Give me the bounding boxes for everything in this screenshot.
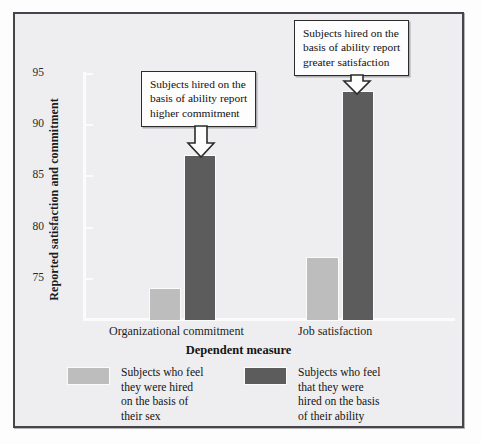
bar-job-satisfaction-sex[interactable] — [306, 257, 339, 321]
legend-label-sex: Subjects who feel they were hired on the… — [121, 366, 203, 425]
annotation-commitment-line-1: Subjects hired on the — [150, 77, 247, 91]
legend-label-ability: Subjects who feel that they were hired o… — [298, 366, 380, 425]
y-tick-label-95: 95 — [14, 66, 44, 78]
bar-organizational-commitment-ability[interactable] — [184, 155, 216, 321]
legend-label-ability-line-3: hired on the basis — [298, 395, 380, 410]
y-tick-95 — [86, 73, 93, 75]
annotation-satisfaction-callout: Subjects hired on the basis of ability r… — [294, 20, 409, 76]
annotation-satisfaction-line-3: greater satisfaction — [303, 55, 400, 69]
annotation-commitment-callout: Subjects hired on the basis of ability r… — [141, 71, 256, 127]
annotation-commitment-line-2: basis of ability report — [150, 91, 247, 105]
legend-swatch-ability-icon — [244, 367, 287, 385]
legend-item-ability[interactable]: Subjects who feel that they were hired o… — [244, 366, 380, 425]
y-tick-label-90: 90 — [14, 117, 44, 129]
bar-organizational-commitment-sex[interactable] — [149, 288, 181, 321]
y-tick-90 — [86, 124, 93, 126]
x-axis-line — [83, 318, 455, 321]
legend-item-sex[interactable]: Subjects who feel they were hired on the… — [67, 366, 203, 425]
annotation-commitment-line-3: higher commitment — [150, 106, 247, 120]
x-axis-title: Dependent measure — [15, 343, 462, 358]
legend-label-sex-line-2: they were hired — [121, 381, 203, 396]
legend-label-ability-line-2: that they were — [298, 381, 380, 396]
y-tick-label-80: 80 — [14, 220, 44, 232]
legend-label-sex-line-4: their sex — [121, 410, 203, 425]
y-tick-80 — [86, 227, 93, 229]
y-tick-label-75: 75 — [14, 271, 44, 283]
annotation-satisfaction-line-1: Subjects hired on the — [303, 26, 400, 40]
y-tick-75 — [86, 278, 93, 280]
legend-label-ability-line-4: of their ability — [298, 410, 380, 425]
plot-area: Reported satisfaction and commitment 95 … — [15, 14, 462, 426]
figure-page: Reported satisfaction and commitment 95 … — [0, 0, 481, 444]
legend-label-ability-line-1: Subjects who feel — [298, 366, 380, 381]
legend-label-sex-line-3: on the basis of — [121, 395, 203, 410]
annotation-satisfaction-arrow-icon — [343, 75, 371, 95]
y-tick-label-85: 85 — [14, 168, 44, 180]
legend-label-sex-line-1: Subjects who feel — [121, 366, 203, 381]
x-category-label-job-satisfaction: Job satisfaction — [298, 324, 372, 339]
figure-frame: Reported satisfaction and commitment 95 … — [13, 12, 464, 428]
annotation-commitment-arrow-icon — [187, 126, 215, 158]
bar-job-satisfaction-ability[interactable] — [342, 91, 374, 321]
y-tick-85 — [86, 175, 93, 177]
y-axis-line — [83, 72, 86, 320]
x-category-label-organizational-commitment: Organizational commitment — [109, 324, 244, 339]
legend: Subjects who feel they were hired on the… — [67, 366, 457, 428]
annotation-satisfaction-line-2: basis of ability report — [303, 40, 400, 54]
legend-swatch-sex-icon — [67, 367, 110, 385]
y-axis-title: Reported satisfaction and commitment — [47, 85, 62, 315]
